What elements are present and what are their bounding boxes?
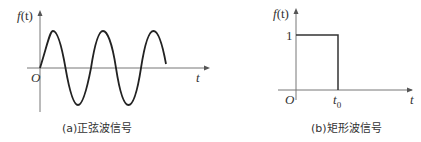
- right-ytick-1: 1: [286, 29, 293, 42]
- right-caption: (b)矩形波信号: [311, 119, 382, 135]
- left-caption: (a)正弦波信号: [62, 119, 132, 135]
- right-origin-label: O: [285, 93, 294, 106]
- right-xtick-t0: t0: [333, 93, 341, 110]
- right-xlabel: t: [410, 93, 414, 106]
- left-origin-label: O: [31, 71, 40, 84]
- rectangular-pulse: [296, 35, 338, 90]
- right-axes: [278, 8, 413, 100]
- left-ylabel: f(t): [17, 9, 33, 22]
- left-axes: [27, 10, 210, 112]
- right-ylabel: f(t): [273, 7, 289, 20]
- left-xlabel: t: [196, 71, 200, 84]
